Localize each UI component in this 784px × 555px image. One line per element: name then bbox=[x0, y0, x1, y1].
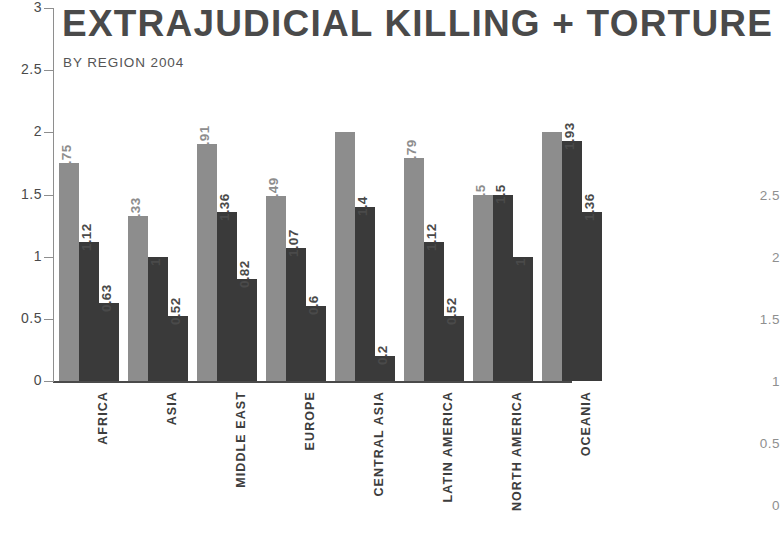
bar bbox=[404, 158, 424, 381]
bar-value-label: 1.49 bbox=[266, 177, 281, 204]
bar-value-label: 0.63 bbox=[99, 284, 114, 311]
y-tick-mark bbox=[44, 381, 54, 382]
y-tick-label: 1 bbox=[34, 248, 42, 264]
bar-value-label: 1.33 bbox=[128, 197, 143, 224]
bar bbox=[473, 195, 493, 382]
bar-value-label: 1.36 bbox=[217, 193, 232, 220]
bar-value-label: 1.07 bbox=[286, 229, 301, 256]
bar-value-label: 0.52 bbox=[168, 298, 183, 325]
bar-value-label: 1.93 bbox=[562, 123, 577, 150]
bar bbox=[493, 195, 513, 382]
bar-value-label: 1.4 bbox=[355, 196, 370, 216]
bar-value-label: 1.75 bbox=[59, 145, 74, 172]
secondary-y-tick-label: 2.5 bbox=[744, 188, 780, 203]
y-tick-label: 1.5 bbox=[21, 186, 42, 202]
bar bbox=[237, 279, 257, 381]
bar-value-label: 0.6 bbox=[306, 296, 321, 316]
x-axis-line bbox=[53, 381, 572, 383]
bar bbox=[79, 242, 99, 381]
y-tick-label: 2 bbox=[34, 123, 42, 139]
secondary-y-tick-label: 2 bbox=[744, 250, 780, 265]
bar bbox=[444, 316, 464, 381]
category-label: CENTRAL ASIA bbox=[372, 391, 386, 497]
bar bbox=[217, 212, 237, 381]
bar bbox=[424, 242, 444, 381]
bar-value-label: 1 bbox=[513, 258, 528, 266]
secondary-y-tick-label: 1 bbox=[744, 374, 780, 389]
category-label: EUROPE bbox=[303, 391, 317, 450]
bar bbox=[335, 132, 355, 381]
category-label: OCEANIA bbox=[579, 391, 593, 456]
bar-value-label: 2 bbox=[542, 134, 557, 142]
bar-value-label: 1.12 bbox=[424, 223, 439, 250]
y-tick-label: 2.5 bbox=[21, 61, 42, 77]
bar bbox=[355, 207, 375, 381]
bar-value-label: 2 bbox=[335, 134, 350, 142]
bar bbox=[128, 216, 148, 381]
secondary-y-tick-label: 1.5 bbox=[744, 312, 780, 327]
bar bbox=[99, 303, 119, 381]
category-label: LATIN AMERICA bbox=[441, 391, 455, 503]
category-label: ASIA bbox=[165, 391, 179, 425]
bar bbox=[286, 248, 306, 381]
bar bbox=[168, 316, 188, 381]
secondary-y-tick-label: 0.5 bbox=[744, 436, 780, 451]
bar bbox=[542, 132, 562, 381]
plot-area: 1.751.120.631.3310.521.911.360.821.491.0… bbox=[53, 8, 573, 381]
bar-value-label: 1.91 bbox=[197, 125, 212, 152]
bar-value-label: 0.82 bbox=[237, 261, 252, 288]
bar bbox=[306, 306, 326, 381]
bar bbox=[59, 163, 79, 381]
bar-value-label: 1.12 bbox=[79, 223, 94, 250]
bar-value-label: 1.79 bbox=[404, 140, 419, 167]
bar-value-label: 0.52 bbox=[444, 298, 459, 325]
y-tick-label: 0 bbox=[34, 372, 42, 388]
category-label: AFRICA bbox=[96, 391, 110, 445]
category-label: NORTH AMERICA bbox=[510, 391, 524, 511]
bar bbox=[582, 212, 602, 381]
secondary-y-tick-label: 0 bbox=[744, 498, 780, 513]
bar bbox=[148, 257, 168, 381]
bar-value-label: 0.2 bbox=[375, 345, 390, 365]
y-tick-label: 0.5 bbox=[21, 310, 42, 326]
category-label: MIDDLE EAST bbox=[234, 391, 248, 488]
bar bbox=[562, 141, 582, 381]
bar-value-label: 1.5 bbox=[473, 184, 488, 204]
bar bbox=[266, 196, 286, 381]
bar-value-label: 1 bbox=[148, 258, 163, 266]
y-tick-label: 3 bbox=[34, 0, 42, 15]
bar bbox=[513, 257, 533, 381]
bar-value-label: 1.5 bbox=[493, 184, 508, 204]
bar bbox=[197, 144, 217, 381]
bar-value-label: 1.36 bbox=[582, 193, 597, 220]
